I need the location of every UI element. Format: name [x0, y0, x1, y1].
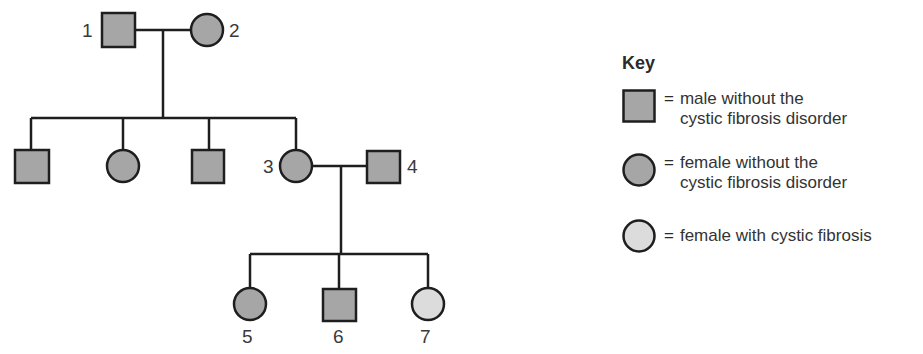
key-item-text: male without the cystic fibrosis disorde… — [680, 89, 847, 129]
pedigree-chart — [0, 0, 600, 354]
gen2-female-b-symbol — [107, 150, 139, 182]
individual-2-female-symbol — [191, 14, 223, 46]
individual-3-female-symbol — [280, 150, 312, 182]
key-item-female-affected: = female with cystic fibrosis — [622, 219, 872, 253]
label-individual-5: 5 — [242, 327, 253, 346]
label-individual-7: 7 — [420, 327, 431, 346]
square-symbol-icon — [622, 89, 656, 123]
individual-7-affected-female-symbol — [412, 288, 444, 320]
gen2-male-c-symbol — [192, 150, 224, 183]
label-individual-6: 6 — [333, 327, 344, 346]
individual-4-male-symbol — [367, 151, 400, 183]
pedigree-symbols — [15, 13, 444, 321]
circle-symbol-icon — [622, 153, 656, 187]
individual-1-male-symbol — [102, 13, 135, 47]
key-item-text: female with cystic fibrosis — [680, 226, 872, 246]
label-individual-3: 3 — [263, 157, 274, 176]
individual-6-male-symbol — [323, 289, 356, 321]
equals-sign: = — [664, 153, 674, 173]
label-individual-2: 2 — [229, 21, 240, 40]
individual-5-female-symbol — [234, 288, 266, 320]
key-item-male-unaffected: = male without the cystic fibrosis disor… — [622, 89, 847, 129]
equals-sign: = — [664, 226, 674, 246]
key-title: Key — [622, 53, 655, 74]
key-item-text: female without the cystic fibrosis disor… — [680, 153, 847, 193]
light-circle-symbol-icon — [622, 219, 656, 253]
key-item-female-unaffected: = female without the cystic fibrosis dis… — [622, 153, 847, 193]
equals-sign: = — [664, 89, 674, 109]
gen2-male-a-symbol — [15, 150, 49, 183]
label-individual-4: 4 — [407, 157, 418, 176]
label-individual-1: 1 — [82, 21, 93, 40]
